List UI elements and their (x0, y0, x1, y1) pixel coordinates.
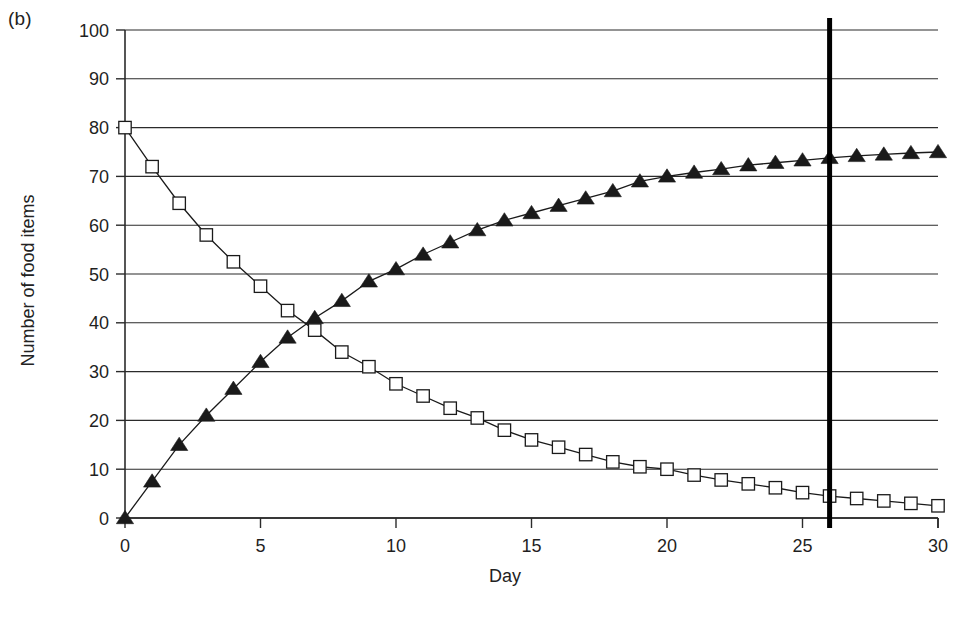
data-point-square (878, 495, 890, 507)
data-point-square (932, 500, 944, 512)
x-tick-marks-group (125, 518, 938, 528)
x-tick-label: 0 (120, 536, 130, 556)
y-tick-label: 70 (89, 167, 109, 187)
y-tick-label: 20 (89, 411, 109, 431)
data-point-square (309, 324, 321, 336)
data-point-square (796, 486, 808, 498)
figure-panel-b: (b) Number of food items Day 01020304050… (0, 0, 974, 618)
y-tick-label: 60 (89, 216, 109, 236)
y-tick-marks-group (116, 30, 125, 518)
line-chart: 0102030405060708090100 051015202530 (0, 0, 974, 618)
data-point-triangle (387, 262, 404, 275)
data-point-triangle (279, 330, 296, 343)
data-point-square (688, 469, 700, 481)
y-tick-labels-group: 0102030405060708090100 (79, 21, 109, 529)
y-tick-label: 40 (89, 313, 109, 333)
data-point-square (444, 402, 456, 414)
data-point-triangle (604, 183, 621, 196)
data-point-triangle (929, 144, 946, 157)
x-tick-label: 20 (657, 536, 677, 556)
data-point-square (119, 121, 131, 133)
data-point-triangle (442, 235, 459, 248)
data-point-triangle (360, 274, 377, 287)
x-tick-label: 10 (386, 536, 406, 556)
y-tick-label: 90 (89, 69, 109, 89)
data-point-square (552, 441, 564, 453)
axis-lines-group (125, 30, 938, 528)
data-point-triangle (577, 191, 594, 204)
data-point-triangle (523, 205, 540, 218)
data-point-square (281, 304, 293, 316)
y-tick-label: 50 (89, 265, 109, 285)
y-tick-label: 10 (89, 460, 109, 480)
data-point-triangle (469, 222, 486, 235)
data-point-square (254, 280, 266, 292)
data-point-triangle (116, 510, 133, 523)
data-point-triangle (902, 145, 919, 158)
data-point-square (851, 492, 863, 504)
data-point-square (173, 197, 185, 209)
data-point-square (607, 456, 619, 468)
data-point-square (227, 256, 239, 268)
x-tick-labels-group: 051015202530 (120, 536, 948, 556)
x-tick-label: 25 (792, 536, 812, 556)
data-point-triangle (144, 474, 161, 487)
data-point-triangle (496, 213, 513, 226)
y-tick-label: 100 (79, 21, 109, 41)
data-point-square (471, 412, 483, 424)
series-line-0 (125, 128, 938, 506)
data-point-square (661, 463, 673, 475)
data-point-square (336, 346, 348, 358)
data-point-square (146, 160, 158, 172)
data-point-square (200, 229, 212, 241)
x-tick-label: 15 (521, 536, 541, 556)
data-point-square (417, 390, 429, 402)
data-point-triangle (415, 247, 432, 260)
data-point-triangle (550, 198, 567, 211)
data-point-square (525, 434, 537, 446)
data-point-square (905, 497, 917, 509)
y-tick-label: 30 (89, 362, 109, 382)
y-tick-label: 80 (89, 118, 109, 138)
x-tick-label: 5 (255, 536, 265, 556)
data-point-triangle (333, 293, 350, 306)
data-point-square (715, 474, 727, 486)
data-point-triangle (306, 310, 323, 323)
data-point-square (769, 482, 781, 494)
data-point-square (390, 378, 402, 390)
data-point-square (742, 478, 754, 490)
data-point-square (634, 461, 646, 473)
data-point-square (363, 361, 375, 373)
y-tick-label: 0 (99, 509, 109, 529)
data-point-square (498, 424, 510, 436)
data-point-square (580, 448, 592, 460)
x-tick-label: 30 (928, 536, 948, 556)
